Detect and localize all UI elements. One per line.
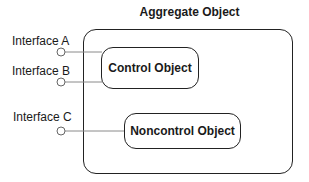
control-object-label: Control Object [108, 61, 191, 75]
connector-lines [0, 0, 309, 182]
noncontrol-object-label: Noncontrol Object [130, 124, 235, 138]
interface-a-icon [57, 48, 65, 56]
noncontrol-object-box: Noncontrol Object [124, 113, 241, 149]
interface-b-icon [57, 78, 65, 86]
interface-b-label: Interface B [12, 64, 70, 78]
interface-c-label: Interface C [13, 110, 72, 124]
control-object-box: Control Object [101, 47, 199, 89]
interface-a-label: Interface A [12, 34, 69, 48]
interface-c-icon [57, 127, 65, 135]
